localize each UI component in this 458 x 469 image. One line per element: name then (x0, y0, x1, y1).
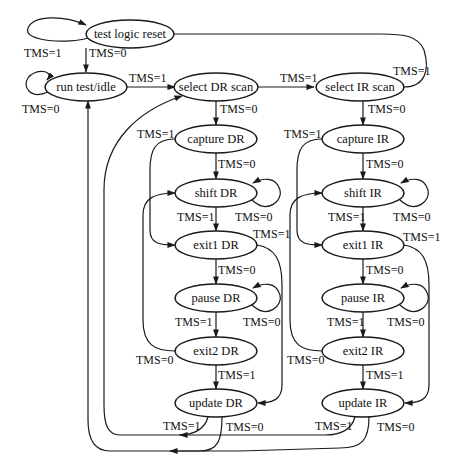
label-exit1ir-to-pauseir: TMS=0 (366, 263, 403, 277)
state-select-dr-scan: select DR scan (174, 73, 258, 101)
state-shift-ir: shift IR (322, 179, 404, 207)
label-shiftir-to-exit1ir: TMS=1 (328, 210, 365, 224)
label-exit2dr-to-updatedr: TMS=1 (218, 368, 255, 382)
state-capture-dr: capture DR (175, 125, 257, 153)
label-updatedr-to-rti: TMS=0 (226, 420, 263, 434)
label-capdr-to-shiftdr: TMS=0 (218, 157, 255, 171)
label-exit2dr-to-shiftdr: TMS=0 (136, 353, 173, 367)
state-test-logic-reset: test logic reset (86, 20, 174, 48)
label-shiftir-self: TMS=0 (393, 210, 430, 224)
edge-capir-to-exit1ir (297, 139, 322, 245)
state-exit2-ir: exit2 IR (322, 337, 404, 365)
label-shiftdr-to-exit1dr: TMS=1 (177, 210, 214, 224)
state-label: capture DR (187, 132, 245, 146)
state-label: exit1 IR (343, 238, 384, 252)
state-update-dr: update DR (175, 389, 257, 417)
label-capir-to-shiftir: TMS=0 (366, 157, 403, 171)
label-seldr-to-selir: TMS=1 (280, 71, 317, 85)
state-label: exit2 IR (343, 344, 384, 358)
state-update-ir: update IR (322, 389, 404, 417)
label-rti-to-seldr: TMS=1 (129, 71, 166, 85)
state-label: pause IR (341, 291, 386, 305)
label-exit1ir-to-updateir: TMS=1 (403, 230, 440, 244)
label-updateir-to-seldr: TMS=1 (315, 419, 352, 433)
state-label: exit2 DR (193, 344, 239, 358)
state-label: exit1 DR (193, 238, 239, 252)
label-selir-to-tlr: TMS=1 (393, 64, 430, 78)
label-exit1dr-to-pausedr: TMS=0 (218, 263, 255, 277)
state-pause-ir: pause IR (322, 284, 404, 312)
label-exit2ir-to-shiftir: TMS=0 (287, 353, 324, 367)
label-pauseir-to-exit2ir: TMS=1 (327, 315, 364, 329)
label-tlr-self: TMS=1 (24, 46, 61, 60)
state-run-test-idle: run test/idle (45, 73, 127, 101)
state-capture-ir: capture IR (322, 125, 404, 153)
edge-tlr-self (27, 18, 88, 41)
state-label: select DR scan (179, 80, 254, 94)
label-updatedr-to-seldr: TMS=1 (163, 419, 200, 433)
label-pauseir-self: TMS=0 (387, 315, 424, 329)
label-rti-self: TMS=0 (22, 102, 59, 116)
state-pause-dr: pause DR (175, 284, 257, 312)
label-updateir-to-rti: TMS=0 (377, 420, 414, 434)
edge-exit2dr-to-shiftdr (143, 193, 175, 351)
state-select-ir-scan: select IR scan (316, 73, 404, 101)
edge-capdr-to-exit1dr (150, 139, 175, 245)
state-label: pause DR (192, 291, 242, 305)
state-exit1-dr: exit1 DR (175, 231, 257, 259)
state-label: capture IR (337, 132, 390, 146)
edge-exit2ir-to-shiftir (290, 193, 322, 351)
state-label: shift IR (344, 186, 383, 200)
state-label: test logic reset (94, 27, 167, 41)
state-label: shift DR (195, 186, 238, 200)
jtag-state-diagram: TMS=1 TMS=0 TMS=0 TMS=1 TMS=1 TMS=1 TMS=… (0, 0, 458, 469)
label-seldr-to-capdr: TMS=0 (220, 102, 257, 116)
label-selir-to-capir: TMS=0 (368, 102, 405, 116)
state-label: update IR (339, 396, 389, 410)
label-exit1dr-to-updatedr: TMS=1 (253, 227, 290, 241)
label-capdr-to-exit1dr: TMS=1 (137, 127, 174, 141)
state-shift-dr: shift DR (175, 179, 257, 207)
state-label: select IR scan (325, 80, 395, 94)
state-label: run test/idle (56, 80, 116, 94)
label-shiftdr-self: TMS=0 (235, 210, 272, 224)
label-capir-to-exit1ir: TMS=1 (284, 127, 321, 141)
state-label: update DR (189, 396, 243, 410)
label-exit2ir-to-updateir: TMS=1 (366, 368, 403, 382)
label-pausedr-to-exit2dr: TMS=1 (175, 315, 212, 329)
state-exit1-ir: exit1 IR (322, 231, 404, 259)
state-exit2-dr: exit2 DR (175, 337, 257, 365)
label-pausedr-self: TMS=0 (243, 315, 280, 329)
